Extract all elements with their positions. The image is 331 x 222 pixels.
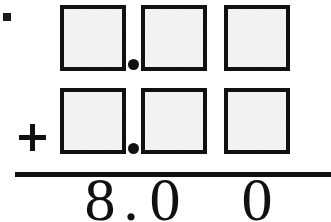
- digit-box-row2-tenths[interactable]: [141, 88, 207, 154]
- plus-operator-icon: [19, 124, 46, 151]
- digit-box-row1-tenths[interactable]: [141, 5, 207, 71]
- answer-digit-ones: 8: [80, 176, 120, 222]
- answer-digit-tenths: 0: [145, 176, 185, 222]
- digit-box-row1-hundredths[interactable]: [224, 5, 290, 71]
- decimal-addition-worksheet: 8 . 0 0: [0, 0, 331, 222]
- answer-decimal-point: .: [116, 176, 146, 222]
- digit-box-row2-ones[interactable]: [60, 88, 126, 154]
- decimal-point-row1: [128, 59, 139, 70]
- digit-box-row2-hundredths[interactable]: [224, 88, 290, 154]
- answer-row: 8 . 0 0: [0, 176, 331, 222]
- plus-vertical-bar: [30, 124, 35, 151]
- decimal-point-row2: [128, 143, 139, 154]
- scan-speck: [3, 13, 11, 21]
- answer-digit-hundredths: 0: [237, 176, 277, 222]
- digit-box-row1-ones[interactable]: [60, 5, 126, 71]
